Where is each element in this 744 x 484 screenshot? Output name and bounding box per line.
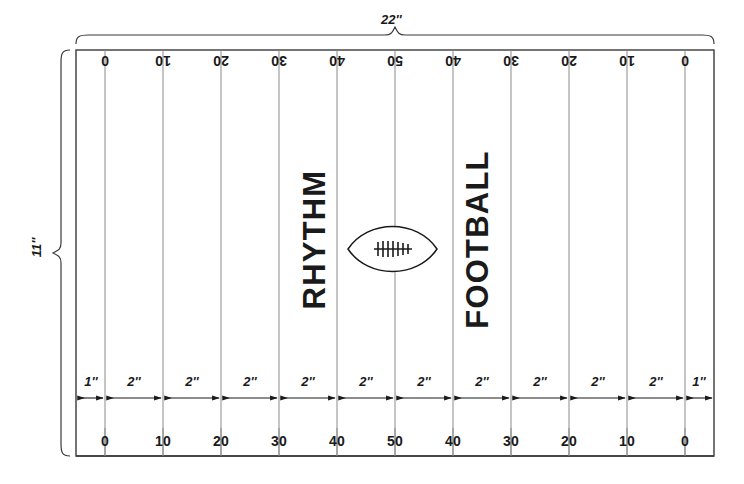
segment-dimension: 2'' — [587, 375, 609, 388]
yard-number-bottom: 0 — [95, 434, 115, 448]
diagram-canvas: 22'' 11'' 0 10 20 30 40 50 40 30 20 10 0… — [0, 0, 744, 484]
yard-number-top: 40 — [443, 54, 463, 68]
yard-number-bottom: 10 — [153, 434, 173, 448]
segment-dimension: 1'' — [80, 375, 102, 388]
segment-dimension: 2'' — [181, 375, 203, 388]
yard-number-top: 0 — [675, 54, 695, 68]
yard-number-top: 40 — [327, 54, 347, 68]
segment-dimension: 2'' — [239, 375, 261, 388]
yard-number-bottom: 50 — [385, 434, 405, 448]
yard-number-bottom: 0 — [675, 434, 695, 448]
yard-number-bottom: 30 — [501, 434, 521, 448]
yard-number-top: 0 — [95, 54, 115, 68]
yard-number-top: 30 — [269, 54, 289, 68]
width-brace — [76, 27, 714, 44]
segment-dimension: 2'' — [123, 375, 145, 388]
segment-dimension: 2'' — [471, 375, 493, 388]
yard-number-top: 50 — [385, 54, 405, 68]
yard-number-bottom: 40 — [443, 434, 463, 448]
overall-height-label: 11'' — [30, 234, 43, 262]
overall-width-label: 22'' — [381, 13, 402, 26]
field-word-rhythm: RHYTHM — [299, 170, 330, 310]
segment-dimension: 2'' — [529, 375, 551, 388]
yard-number-top: 10 — [617, 54, 637, 68]
diagram-linework — [0, 0, 744, 484]
yard-number-top: 30 — [501, 54, 521, 68]
yard-number-bottom: 40 — [327, 434, 347, 448]
yard-number-bottom: 20 — [211, 434, 231, 448]
yard-number-bottom: 30 — [269, 434, 289, 448]
height-brace — [53, 50, 70, 456]
yard-number-bottom: 10 — [617, 434, 637, 448]
yard-number-top: 20 — [559, 54, 579, 68]
segment-dimension: 1'' — [688, 375, 710, 388]
football-icon — [348, 227, 437, 272]
field-word-football: FOOTBALL — [462, 150, 493, 330]
yard-number-bottom: 20 — [559, 434, 579, 448]
segment-dimension: 2'' — [645, 375, 667, 388]
yard-number-top: 10 — [153, 54, 173, 68]
segment-dimension: 2'' — [355, 375, 377, 388]
segment-dimension: 2'' — [413, 375, 435, 388]
segment-dimension: 2'' — [297, 375, 319, 388]
yard-number-top: 20 — [211, 54, 231, 68]
